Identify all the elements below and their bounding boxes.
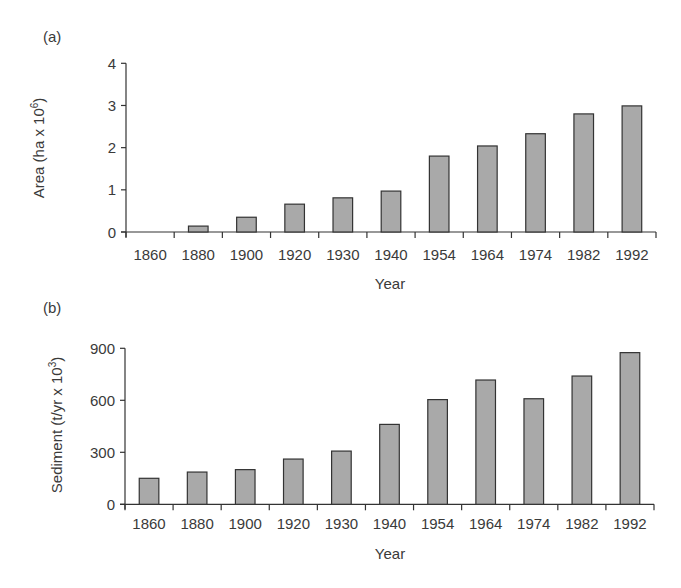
y-tick-label: 4 xyxy=(108,55,116,72)
x-tick-label: 1974 xyxy=(519,246,552,263)
x-tick-label: 1974 xyxy=(517,515,550,532)
bar-1940 xyxy=(380,424,400,504)
y-axis-label: Sediment (t/yr x 103) xyxy=(47,357,65,493)
bar-1954 xyxy=(429,156,449,232)
x-tick-label: 1860 xyxy=(133,246,166,263)
bar-1964 xyxy=(476,380,496,504)
x-tick-label: 1860 xyxy=(132,515,165,532)
figure: (a)0123418601880190019201930194019541964… xyxy=(0,0,681,588)
y-tick-label: 0 xyxy=(108,224,116,241)
x-tick-label: 1954 xyxy=(422,246,455,263)
bar-1992 xyxy=(620,353,640,505)
x-tick-label: 1954 xyxy=(421,515,454,532)
panel-label: (a) xyxy=(43,28,61,45)
x-tick-label: 1900 xyxy=(230,246,263,263)
x-tick-label: 1900 xyxy=(229,515,262,532)
x-tick-label: 1880 xyxy=(182,246,215,263)
bar-1954 xyxy=(428,400,448,505)
bar-1920 xyxy=(285,204,305,232)
bar-1974 xyxy=(524,399,544,505)
bar-1930 xyxy=(333,198,353,232)
bar-1992 xyxy=(622,106,642,232)
x-tick-label: 1964 xyxy=(469,515,502,532)
bar-1920 xyxy=(284,459,304,504)
bar-1982 xyxy=(572,376,592,504)
x-tick-label: 1930 xyxy=(325,515,358,532)
x-tick-label: 1982 xyxy=(567,246,600,263)
x-tick-label: 1982 xyxy=(565,515,598,532)
bar-1880 xyxy=(188,226,208,232)
y-tick-label: 2 xyxy=(108,139,116,156)
x-axis-label: Year xyxy=(375,545,405,562)
y-tick-label: 0 xyxy=(107,496,115,513)
chart-panel-a: (a)0123418601880190019201930194019541964… xyxy=(29,28,656,292)
x-tick-label: 1992 xyxy=(613,515,646,532)
y-tick-label: 1 xyxy=(108,181,116,198)
bar-1940 xyxy=(381,191,401,232)
y-tick-label: 300 xyxy=(90,444,115,461)
x-tick-label: 1920 xyxy=(278,246,311,263)
bar-1880 xyxy=(187,472,207,504)
y-tick-label: 900 xyxy=(90,340,115,357)
bar-1930 xyxy=(332,451,352,504)
bar-1974 xyxy=(526,134,546,232)
x-tick-label: 1940 xyxy=(373,515,406,532)
bar-1982 xyxy=(574,114,594,232)
bar-1900 xyxy=(237,217,257,232)
x-tick-label: 1964 xyxy=(471,246,504,263)
x-axis-label: Year xyxy=(375,275,405,292)
x-tick-label: 1992 xyxy=(615,246,648,263)
bar-1860 xyxy=(139,478,159,504)
y-tick-label: 600 xyxy=(90,392,115,409)
y-axis-label: Area (ha x 106) xyxy=(29,98,47,199)
x-tick-label: 1940 xyxy=(374,246,407,263)
x-tick-label: 1930 xyxy=(326,246,359,263)
bar-1900 xyxy=(235,470,255,505)
y-tick-label: 3 xyxy=(108,97,116,114)
chart-panel-b: (b)0300600900186018801900192019301940195… xyxy=(43,299,654,562)
x-tick-label: 1880 xyxy=(180,515,213,532)
bar-1964 xyxy=(478,146,498,232)
panel-label: (b) xyxy=(43,299,61,316)
x-tick-label: 1920 xyxy=(277,515,310,532)
